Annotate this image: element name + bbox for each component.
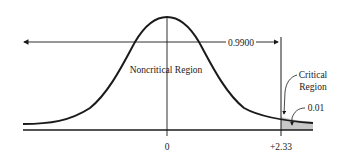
critical-region-label-line1: Critical bbox=[299, 70, 328, 80]
tick-label-zero: 0 bbox=[165, 142, 170, 152]
tick-label-critical-value: +2.33 bbox=[270, 142, 292, 152]
area-label: 0.9900 bbox=[228, 38, 254, 48]
normal-curve-svg: 0.9900 Noncritical Region Critical Regio… bbox=[0, 0, 345, 157]
critical-region-leader bbox=[284, 75, 297, 114]
noncritical-region-label: Noncritical Region bbox=[130, 65, 203, 75]
critical-region-label-line2: Region bbox=[299, 82, 327, 92]
normal-curve-figure: 0.9900 Noncritical Region Critical Regio… bbox=[0, 0, 345, 157]
tail-area-label: 0.01 bbox=[308, 103, 325, 113]
